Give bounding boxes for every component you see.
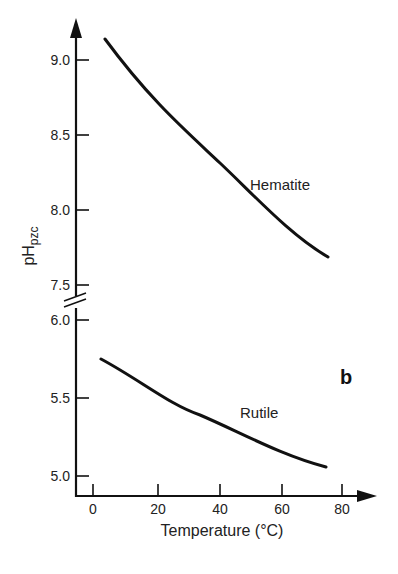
x-tick-label: 60 [274,501,290,517]
y-axis-arrow-icon [70,18,82,38]
x-axis-arrow-icon [357,490,377,502]
y-tick-label: 7.5 [51,277,71,293]
x-ticks [93,484,342,496]
chart: 9.0 8.5 8.0 7.5 6.0 5.5 5.0 0 20 40 60 8… [0,0,398,574]
x-tick-label: 80 [334,501,350,517]
x-axis-title: Temperature (°C) [161,522,284,539]
y-tick-label: 5.0 [51,468,71,484]
x-tick-label: 0 [89,501,97,517]
hematite-label: Hematite [250,176,310,193]
y-tick-label: 8.5 [51,127,71,143]
panel-label: b [340,366,352,388]
y-axis-title: pHpzc [20,226,41,265]
rutile-curve [101,359,326,467]
x-tick-label: 40 [212,501,228,517]
y-ticks-upper [76,60,89,285]
rutile-label: Rutile [240,404,278,421]
y-tick-label: 9.0 [51,52,71,68]
x-tick-label: 20 [150,501,166,517]
hematite-curve [105,39,328,257]
y-tick-label: 6.0 [51,312,71,328]
y-tick-label: 5.5 [51,390,71,406]
y-ticks-lower [76,320,89,476]
y-tick-label: 8.0 [51,202,71,218]
